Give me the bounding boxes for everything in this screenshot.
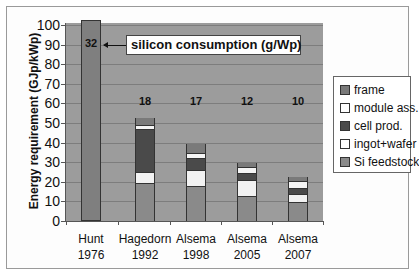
legend-item: module ass. — [340, 100, 419, 116]
legend-item: frame — [340, 82, 385, 98]
bar-segment-frame — [238, 163, 256, 167]
category-name: Hunt — [61, 231, 121, 247]
arrowhead-icon — [103, 42, 108, 48]
bar-segment-cell-prod- — [238, 173, 256, 180]
category-name: Alsema — [268, 231, 328, 247]
bar-segment-ingot-wafer — [289, 194, 307, 203]
x-category-label: Alsema2007 — [268, 231, 328, 263]
legend-item: ingot+wafer — [340, 136, 416, 152]
legend-item: Si feedstock — [340, 154, 419, 170]
bar-hunt-1976 — [81, 20, 101, 221]
legend-label: frame — [354, 83, 385, 97]
y-tick-label: 30 — [30, 155, 60, 169]
x-axis-line — [66, 221, 323, 222]
legend-label: cell prod. — [354, 119, 403, 133]
y-tick-label: 50 — [30, 116, 60, 130]
bar-segment-si-feedstock — [289, 202, 307, 221]
legend-swatch-icon — [340, 157, 350, 167]
bar-segment-cell-prod- — [187, 158, 205, 170]
y-tick-label: 20 — [30, 175, 60, 189]
bar-segment-si-feedstock — [238, 196, 256, 221]
bar-segment-ingot-wafer — [238, 180, 256, 196]
y-tick-label: 60 — [30, 96, 60, 110]
legend-label: ingot+wafer — [354, 137, 416, 151]
bar-segment-cell-prod- — [289, 188, 307, 194]
x-tick-mark — [118, 221, 119, 225]
legend-swatch-icon — [340, 85, 350, 95]
stacked-bar — [237, 163, 257, 221]
legend-label: module ass. — [354, 101, 419, 115]
bar-segment-cell-prod- — [136, 129, 154, 172]
legend-swatch-icon — [340, 139, 350, 149]
bar-segment-frame — [136, 118, 154, 125]
silicon-consumption-value: 32 — [76, 37, 106, 49]
bar-segment-frame — [187, 144, 205, 154]
bar-segment-module-ass- — [136, 125, 154, 129]
legend: framemodule ass.cell prod.ingot+waferSi … — [333, 76, 411, 173]
bar-segment-si-feedstock — [136, 183, 154, 221]
silicon-consumption-value: 10 — [283, 95, 313, 107]
gridline — [66, 64, 323, 65]
x-tick-mark — [170, 221, 171, 225]
gridline — [66, 84, 323, 85]
category-year: 2007 — [268, 247, 328, 263]
legend-swatch-icon — [340, 121, 350, 131]
legend-item: cell prod. — [340, 118, 403, 134]
silicon-consumption-value: 12 — [232, 95, 262, 107]
legend-label: Si feedstock — [354, 155, 419, 169]
y-tick-label: 90 — [30, 38, 60, 52]
bar-segment-ingot-wafer — [187, 170, 205, 186]
gridline — [66, 25, 323, 26]
bar-segment-si-feedstock — [187, 186, 205, 221]
y-tick-label: 100 — [30, 18, 60, 32]
bar-segment-frame — [289, 177, 307, 181]
silicon-consumption-value: 18 — [130, 95, 160, 107]
stacked-bar — [288, 177, 308, 221]
x-tick-mark — [323, 221, 324, 225]
stacked-bar — [186, 144, 206, 221]
y-tick-label: 70 — [30, 77, 60, 91]
silicon-consumption-value: 17 — [181, 95, 211, 107]
bar-segment-module-ass- — [187, 153, 205, 158]
y-tick-label: 80 — [30, 57, 60, 71]
gridline — [66, 123, 323, 124]
y-tick-label: 40 — [30, 136, 60, 150]
x-tick-mark — [221, 221, 222, 225]
legend-swatch-icon — [340, 103, 350, 113]
x-tick-mark — [66, 221, 67, 225]
silicon-consumption-callout: silicon consumption (g/Wp) — [126, 35, 301, 55]
bar-segment-module-ass- — [238, 167, 256, 173]
stacked-bar — [135, 118, 155, 221]
x-category-label: Hunt1976 — [61, 231, 121, 263]
bar-segment-ingot-wafer — [136, 172, 154, 183]
y-tick-label: 10 — [30, 194, 60, 208]
y-axis-line — [65, 23, 66, 222]
category-year: 1976 — [61, 247, 121, 263]
y-tick-label: 0 — [30, 214, 60, 228]
bar-segment-module-ass- — [289, 181, 307, 188]
x-tick-mark — [272, 221, 273, 225]
